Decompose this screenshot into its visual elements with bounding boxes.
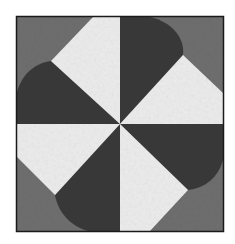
- quilt-block: [0, 0, 235, 244]
